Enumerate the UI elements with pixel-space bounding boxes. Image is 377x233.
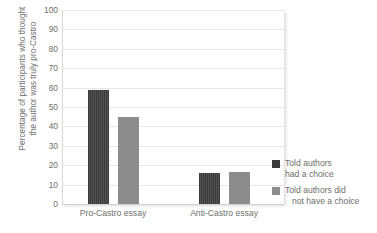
legend-label-1-line-0: Told authors did bbox=[285, 185, 377, 196]
bar-no-choice-0 bbox=[118, 117, 139, 204]
legend-swatch-icon-1 bbox=[272, 187, 280, 195]
y-axis-tick-100: 100 bbox=[30, 6, 58, 14]
y-axis-tick-60: 60 bbox=[30, 83, 58, 91]
y-axis-tick-40: 40 bbox=[30, 122, 58, 130]
y-axis-tick-70: 70 bbox=[30, 64, 58, 72]
y-axis-tick-50: 50 bbox=[30, 103, 58, 111]
y-axis-tick-0: 0 bbox=[30, 200, 58, 208]
y-axis-tick-30: 30 bbox=[30, 142, 58, 150]
legend-label-1-line-1: not have a choice bbox=[285, 196, 377, 207]
gridline-0 bbox=[62, 204, 284, 205]
y-axis-title-line-1: Percentage of participants who thought bbox=[18, 0, 29, 179]
legend-label-0: Told authorshad a choice bbox=[285, 158, 377, 179]
bars-layer bbox=[62, 10, 284, 204]
legend: Told authorshad a choiceTold authors did… bbox=[272, 158, 377, 212]
y-axis-tick-20: 20 bbox=[30, 161, 58, 169]
x-axis-label-1: Anti-Castro essay bbox=[190, 208, 258, 218]
legend-item-0[interactable]: Told authorshad a choice bbox=[272, 158, 377, 179]
bar-choice-1 bbox=[199, 173, 220, 204]
x-axis-category-labels: Pro-Castro essayAnti-Castro essay bbox=[62, 208, 284, 226]
legend-label-0-line-0: Told authors bbox=[285, 158, 377, 169]
y-axis-tick-90: 90 bbox=[30, 25, 58, 33]
y-axis-tick-labels: 0102030405060708090100 bbox=[30, 10, 58, 204]
x-axis-label-0: Pro-Castro essay bbox=[80, 208, 146, 218]
legend-item-1[interactable]: Told authors didnot have a choice bbox=[272, 185, 377, 206]
bar-chart: Percentage of participants who thought t… bbox=[0, 0, 377, 233]
y-axis-tick-10: 10 bbox=[30, 180, 58, 188]
legend-label-0-line-1: had a choice bbox=[285, 169, 377, 180]
legend-swatch-icon-0 bbox=[272, 160, 280, 168]
bar-choice-0 bbox=[88, 90, 109, 204]
legend-label-1: Told authors didnot have a choice bbox=[285, 185, 377, 206]
bar-no-choice-1 bbox=[229, 172, 250, 204]
y-axis-tick-80: 80 bbox=[30, 45, 58, 53]
plot-area bbox=[62, 10, 284, 204]
